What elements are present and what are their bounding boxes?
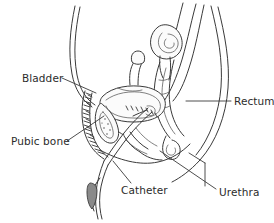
leader-urethra xyxy=(160,151,216,189)
label-catheter: Catheter xyxy=(121,184,168,196)
label-urethra: Urethra xyxy=(219,186,259,198)
leader-catheter xyxy=(113,161,131,183)
uterus-body xyxy=(151,25,183,59)
vaginal-canal xyxy=(136,128,157,146)
rectum-fold-1 xyxy=(159,78,170,80)
abdominal-wall-outer xyxy=(70,6,92,107)
urethra-group xyxy=(124,128,162,160)
uterus-group xyxy=(151,25,183,80)
anatomical-figure: Bladder Pubic bone Catheter Rectum Ureth… xyxy=(0,0,274,223)
urachus xyxy=(130,62,134,85)
catheter-shaft-lower-2 xyxy=(100,165,108,219)
anal-sphincter xyxy=(166,145,175,155)
labial-fold xyxy=(126,140,147,154)
label-pubic-bone: Pubic bone xyxy=(11,135,70,147)
urachus-2 xyxy=(138,63,142,85)
illustration-canvas: Bladder Pubic bone Catheter Rectum Ureth… xyxy=(0,0,274,223)
label-rectum: Rectum xyxy=(234,95,274,107)
label-bladder: Bladder xyxy=(22,72,64,84)
leader-bladder xyxy=(62,78,96,93)
perineal-body xyxy=(140,152,162,160)
urachus-tip xyxy=(131,51,144,64)
cervix xyxy=(160,56,163,78)
rectum-wall-posterior xyxy=(169,60,184,136)
anal-canal xyxy=(163,136,181,159)
